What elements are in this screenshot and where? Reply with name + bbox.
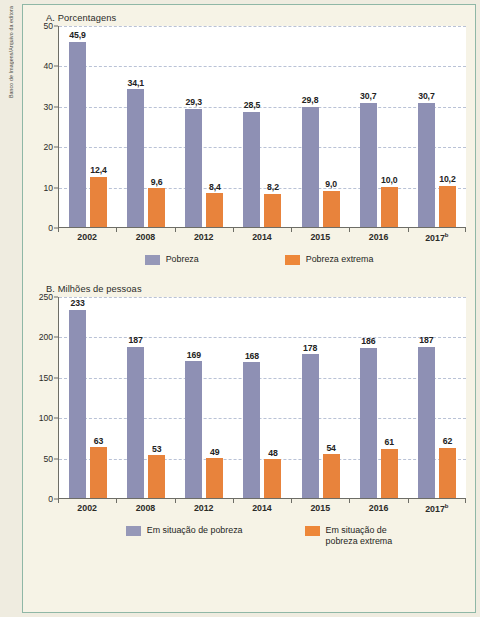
legend-label: Em situação de pobreza: [147, 525, 243, 536]
bar-series-b-2015: 54: [323, 454, 340, 498]
bar-series-a-2016: 30,7: [360, 103, 377, 227]
legend-item[interactable]: Em situação depobreza extrema: [305, 525, 393, 547]
legend-swatch: [126, 526, 141, 536]
bar-series-a-2017: 187: [418, 347, 435, 498]
chart-panel-a: A. Porcentagens 01020304050 45,912,434,1…: [32, 13, 466, 265]
y-tick-label: 50: [43, 454, 53, 464]
legend-label: Pobreza: [166, 254, 199, 265]
bar-series-b-2014: 48: [264, 459, 281, 498]
x-tick-mark: [233, 228, 234, 232]
x-tick-mark: [58, 228, 59, 232]
legend-item[interactable]: Pobreza extrema: [285, 254, 374, 265]
x-tick-label-2017: 2017b: [408, 499, 466, 514]
legend-item[interactable]: Pobreza: [145, 254, 199, 265]
chart-b-x-axis: 2002200820122014201520162017b: [58, 499, 466, 514]
x-tick-mark: [349, 499, 350, 503]
bar-group-2015: 29,89,0: [292, 26, 350, 227]
y-tick-label: 100: [39, 413, 53, 423]
bar-value-label: 48: [268, 448, 277, 458]
bar-value-label: 187: [129, 335, 143, 345]
chart-a-plot-area: 45,912,434,19,629,38,428,58,229,89,030,7…: [58, 26, 466, 228]
x-tick-mark: [408, 228, 409, 232]
bar-value-label: 178: [303, 343, 317, 353]
bar-value-label: 12,4: [90, 165, 107, 175]
bar-value-label: 168: [245, 351, 259, 361]
bar-series-b-2012: 49: [206, 458, 223, 498]
legend-swatch: [285, 255, 300, 265]
bar-series-a-2015: 178: [302, 354, 319, 498]
y-tick-label: 20: [43, 142, 53, 152]
y-tick-label: 10: [43, 183, 53, 193]
x-tick-superscript: b: [445, 232, 449, 238]
x-tick-mark: [408, 499, 409, 503]
x-tick-label-2012: 2012: [175, 228, 233, 243]
x-tick-mark-end: [465, 228, 466, 232]
x-tick-mark: [116, 228, 117, 232]
bar-group-2002: 23363: [59, 297, 117, 498]
legend-item[interactable]: Em situação de pobreza: [126, 525, 243, 547]
x-tick-mark-end: [465, 499, 466, 503]
x-tick-mark: [233, 499, 234, 503]
bar-value-label: 29,3: [186, 97, 203, 107]
figure-frame: A. Porcentagens 01020304050 45,912,434,1…: [22, 4, 476, 613]
x-tick-mark: [175, 499, 176, 503]
bar-series-b-2014: 8,2: [264, 194, 281, 227]
x-tick-label-2002: 2002: [58, 228, 116, 243]
chart-b-y-axis: 050100150200250: [32, 297, 58, 499]
bar-value-label: 45,9: [69, 30, 86, 40]
bar-value-label: 34,1: [127, 78, 144, 88]
y-tick-label: 250: [39, 292, 53, 302]
legend-swatch: [305, 526, 320, 536]
x-tick-label-2015: 2015: [291, 228, 349, 243]
x-tick-label-2016: 2016: [349, 228, 407, 243]
bar-group-2014: 28,58,2: [233, 26, 291, 227]
x-tick-mark: [349, 228, 350, 232]
y-tick-label: 150: [39, 373, 53, 383]
bar-value-label: 10,2: [439, 174, 456, 184]
y-tick-label: 0: [48, 223, 53, 233]
chart-a-y-axis: 01020304050: [32, 26, 58, 228]
bar-series-b-2016: 10,0: [381, 187, 398, 227]
bar-value-label: 169: [187, 350, 201, 360]
bar-group-2014: 16848: [233, 297, 291, 498]
bar-value-label: 30,7: [360, 91, 377, 101]
legend-swatch: [145, 255, 160, 265]
bar-series-b-2012: 8,4: [206, 193, 223, 227]
bar-series-a-2012: 169: [185, 361, 202, 498]
bar-series-a-2002: 233: [69, 310, 86, 498]
bar-series-b-2017: 62: [439, 448, 456, 498]
bar-value-label: 187: [419, 335, 433, 345]
y-tick-label: 200: [39, 332, 53, 342]
bar-value-label: 8,4: [209, 182, 221, 192]
bar-series-a-2012: 29,3: [185, 109, 202, 227]
bar-value-label: 49: [210, 447, 219, 457]
bar-value-label: 53: [152, 444, 161, 454]
bar-group-2017: 30,710,2: [408, 26, 466, 227]
bar-series-b-2002: 63: [90, 447, 107, 498]
bar-group-2012: 29,38,4: [175, 26, 233, 227]
bar-value-label: 233: [70, 298, 84, 308]
bar-group-container: 45,912,434,19,629,38,428,58,229,89,030,7…: [59, 26, 466, 227]
x-tick-mark: [291, 228, 292, 232]
bar-group-2017: 18762: [408, 297, 466, 498]
bar-series-b-2008: 53: [148, 455, 165, 498]
image-credit: Banco de Imagens/Arquivo da editora: [0, 0, 22, 617]
x-tick-label-2014: 2014: [233, 499, 291, 514]
bar-group-container: 23363187531694916848178541866118762: [59, 297, 466, 498]
bar-value-label: 29,8: [302, 95, 319, 105]
chart-b: 050100150200250 233631875316949168481785…: [32, 297, 466, 514]
x-tick-label-2017: 2017b: [408, 228, 466, 243]
bar-series-b-2017: 10,2: [439, 186, 456, 227]
x-tick-mark: [175, 228, 176, 232]
chart-panel-b: B. Milhões de pessoas 050100150200250 23…: [32, 284, 466, 547]
y-tick-label: 30: [43, 102, 53, 112]
bar-value-label: 54: [326, 443, 335, 453]
bar-group-2012: 16949: [175, 297, 233, 498]
bar-series-a-2014: 168: [243, 362, 260, 498]
legend-label: Em situação depobreza extrema: [326, 525, 393, 547]
y-tick-label: 0: [48, 494, 53, 504]
x-tick-label-2015: 2015: [291, 499, 349, 514]
x-tick-superscript: b: [445, 503, 449, 509]
bar-series-b-2016: 61: [381, 449, 398, 498]
bar-value-label: 30,7: [418, 91, 435, 101]
